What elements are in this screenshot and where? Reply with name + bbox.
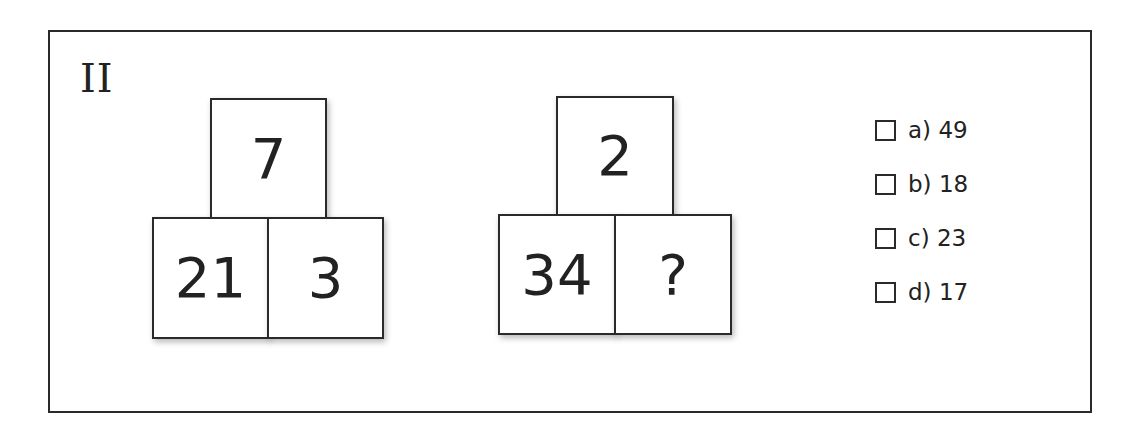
puzzle-2-top-box: 2 — [556, 96, 674, 216]
option-a-label: a) 49 — [908, 119, 968, 142]
question-number: II — [80, 58, 114, 98]
puzzle-2-top-value: 2 — [597, 128, 633, 184]
puzzle-1-bottom-left-box: 21 — [152, 217, 269, 339]
puzzle-1-bottom-right-box: 3 — [267, 217, 384, 339]
puzzle-1-top-box: 7 — [210, 98, 327, 219]
option-b-label: b) 18 — [908, 173, 968, 196]
puzzle-1-top-value: 7 — [251, 131, 287, 187]
option-c[interactable]: c) 23 — [875, 225, 966, 251]
option-d-label: d) 17 — [908, 281, 968, 304]
checkbox-icon[interactable] — [875, 228, 896, 249]
checkbox-icon[interactable] — [875, 174, 896, 195]
puzzle-2-bottom-right-box: ? — [614, 214, 732, 335]
puzzle-1-bottom-right-value: 3 — [308, 250, 344, 306]
checkbox-icon[interactable] — [875, 120, 896, 141]
option-c-label: c) 23 — [908, 227, 966, 250]
puzzle-1-bottom-left-value: 21 — [175, 250, 246, 306]
puzzle-2-bottom-right-value: ? — [658, 247, 688, 303]
option-b[interactable]: b) 18 — [875, 171, 968, 197]
option-d[interactable]: d) 17 — [875, 279, 968, 305]
puzzle-2-bottom-left-box: 34 — [498, 214, 616, 335]
checkbox-icon[interactable] — [875, 282, 896, 303]
puzzle-2-bottom-left-value: 34 — [521, 247, 592, 303]
option-a[interactable]: a) 49 — [875, 117, 968, 143]
